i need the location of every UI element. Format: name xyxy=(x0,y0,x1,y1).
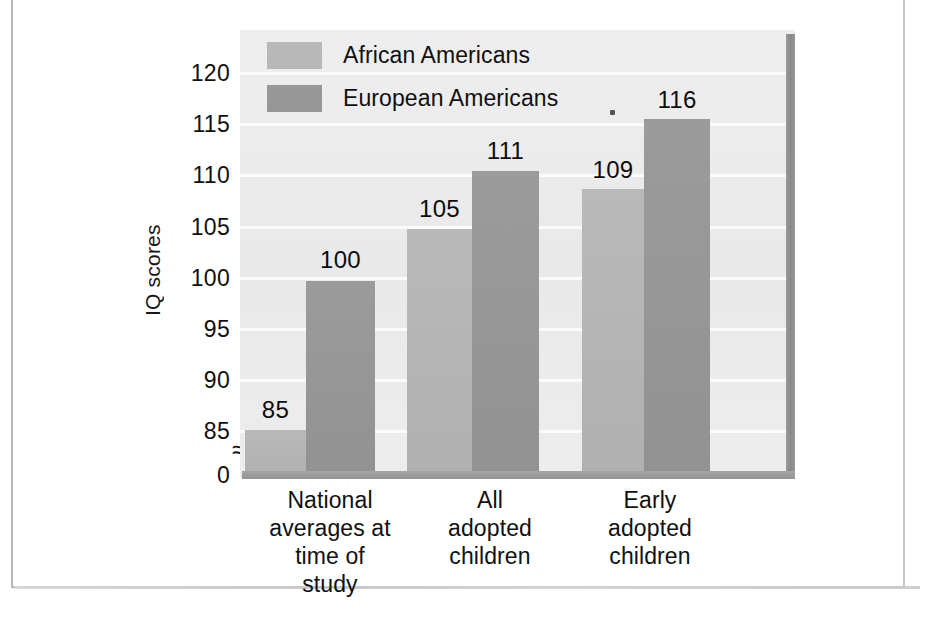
scan-artifact-speck xyxy=(610,110,615,115)
bar-african-americans-early-adopted[interactable] xyxy=(582,189,644,478)
y-tick-90: 90 xyxy=(168,369,230,392)
y-tick-95: 95 xyxy=(168,318,230,341)
legend-label-european-americans: European Americans xyxy=(343,87,558,110)
legend-swatch-icon-european-americans xyxy=(267,85,322,112)
bar-african-americans-all-adopted[interactable] xyxy=(407,229,472,478)
x-category-line: adopted xyxy=(555,514,745,542)
bar-value-109: 109 xyxy=(582,158,644,182)
legend: African Americans European Americans xyxy=(267,38,597,124)
y-axis-title: IQ scores xyxy=(141,215,165,325)
y-tick-105: 105 xyxy=(168,216,230,239)
bar-european-americans-all-adopted[interactable] xyxy=(472,171,539,478)
y-tick-115: 115 xyxy=(168,113,230,136)
y-axis-tick-labels: 120 115 110 105 100 95 90 85 0 xyxy=(168,0,230,619)
y-tick-85: 85 xyxy=(168,420,230,443)
y-tick-100: 100 xyxy=(168,267,230,290)
legend-swatch-icon-african-americans xyxy=(267,42,322,69)
legend-item-african-americans[interactable]: African Americans xyxy=(267,38,597,72)
plot-right-edge-shadow xyxy=(786,34,795,478)
y-tick-110: 110 xyxy=(168,164,230,187)
x-axis-category-labels: National averages at time of study All a… xyxy=(240,486,795,596)
bar-european-americans-national-averages[interactable] xyxy=(306,281,375,478)
bar-value-111: 111 xyxy=(472,139,539,163)
iq-scores-grouped-bar-chart: IQ scores 120 115 110 105 100 95 90 85 0… xyxy=(0,0,932,619)
bar-value-116: 116 xyxy=(644,88,710,112)
bar-european-americans-early-adopted[interactable] xyxy=(644,119,710,478)
x-category-line: Early xyxy=(555,486,745,514)
bar-value-85: 85 xyxy=(245,398,306,422)
x-category-early-adopted: Early adopted children xyxy=(555,486,745,570)
bar-value-105: 105 xyxy=(407,197,472,221)
bar-value-100: 100 xyxy=(306,248,375,272)
y-tick-120: 120 xyxy=(168,62,230,85)
legend-item-european-americans[interactable]: European Americans xyxy=(267,81,597,115)
legend-label-african-americans: African Americans xyxy=(343,44,530,67)
x-axis-baseline xyxy=(242,471,795,479)
x-category-line: children xyxy=(555,542,745,570)
y-tick-0: 0 xyxy=(168,464,230,487)
x-category-line: study xyxy=(235,570,425,598)
